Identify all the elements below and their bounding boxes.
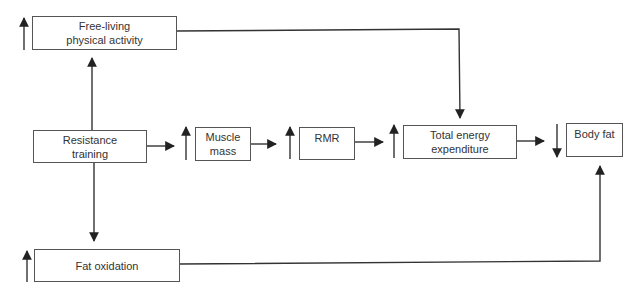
node-label: Resistance training [63, 133, 117, 161]
arrow-free-living-to-tee [176, 29, 460, 118]
node-fat-oxidation: Fat oxidation [34, 249, 180, 282]
node-muscle-mass: Muscle mass [195, 127, 251, 161]
node-rmr: RMR [299, 127, 355, 160]
node-total-energy-expenditure: Total energy expenditure [403, 125, 517, 159]
node-label: Fat oxidation [76, 259, 139, 273]
node-resistance-training: Resistance training [33, 130, 147, 163]
node-body-fat: Body fat [566, 123, 623, 157]
node-free-living-activity: Free-living physical activity [32, 16, 177, 50]
node-label: Total energy expenditure [430, 128, 490, 156]
node-label: RMR [314, 131, 339, 145]
node-label: Muscle mass [206, 130, 241, 158]
arrow-fat-oxidation-to-body-fat [179, 166, 600, 264]
node-label: Free-living physical activity [66, 19, 142, 47]
node-label: Body fat [574, 127, 614, 141]
